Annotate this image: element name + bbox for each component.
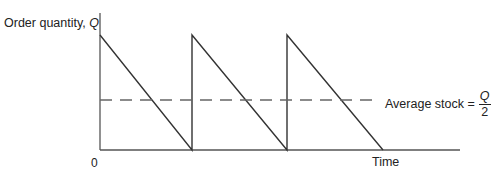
y-axis-label-text: Order quantity,: [4, 16, 89, 30]
fraction-denominator: 2: [481, 105, 488, 119]
origin-label: 0: [91, 156, 98, 170]
q-over-2-fraction: Q 2: [479, 90, 491, 118]
average-stock-annotation: Average stock = Q 2: [385, 90, 491, 118]
stock-level-line: [100, 35, 383, 150]
y-axis-label: Order quantity, Q: [4, 16, 99, 30]
x-axis-label: Time: [372, 155, 399, 169]
y-axis-label-var: Q: [89, 16, 99, 30]
fraction-numerator: Q: [479, 90, 491, 105]
average-stock-text: Average stock =: [385, 97, 475, 111]
